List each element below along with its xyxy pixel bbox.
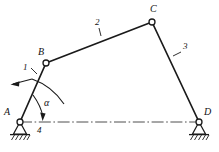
joint-C-pin-icon — [149, 19, 155, 25]
link-label-1: 1 — [23, 63, 28, 72]
joint-A-pin-icon — [17, 119, 23, 125]
four-bar-linkage-figure: A B C D 1 2 3 4 α — [0, 0, 219, 152]
support-D-hatching-icon — [191, 135, 210, 140]
alpha-arrow-head-icon — [40, 113, 45, 121]
joint-label-D: D — [204, 107, 211, 117]
joint-label-B: B — [38, 47, 44, 57]
joint-label-C: C — [150, 4, 157, 14]
rotation-arrow-head-icon — [11, 81, 20, 86]
linkage-drawing-canvas — [0, 0, 219, 152]
angle-label-alpha: α — [44, 98, 49, 108]
link-label-3: 3 — [183, 42, 188, 51]
link-3-rocker-CD — [152, 22, 199, 122]
leader-link-2 — [99, 28, 101, 36]
leader-link-1 — [31, 68, 37, 74]
joint-D-pin-icon — [196, 119, 202, 125]
joint-label-A: A — [4, 107, 10, 117]
support-A-hatching-icon — [12, 135, 31, 140]
leader-link-3 — [173, 52, 181, 56]
link-label-4: 4 — [37, 126, 42, 135]
link-label-2: 2 — [95, 18, 100, 27]
joint-B-pin-icon — [43, 60, 49, 66]
